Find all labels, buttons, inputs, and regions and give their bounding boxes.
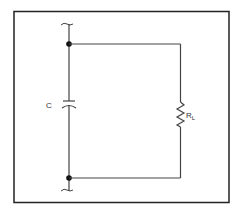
resistor-icon <box>177 102 184 127</box>
circuit-diagram: C RL <box>0 0 242 209</box>
bottom-wavy-terminal-icon <box>61 189 73 191</box>
top-wavy-terminal-icon <box>61 23 73 25</box>
resistor-label-subscript: L <box>192 115 196 121</box>
resistor-label: RL <box>186 111 196 121</box>
capacitor-label: C <box>46 101 52 110</box>
